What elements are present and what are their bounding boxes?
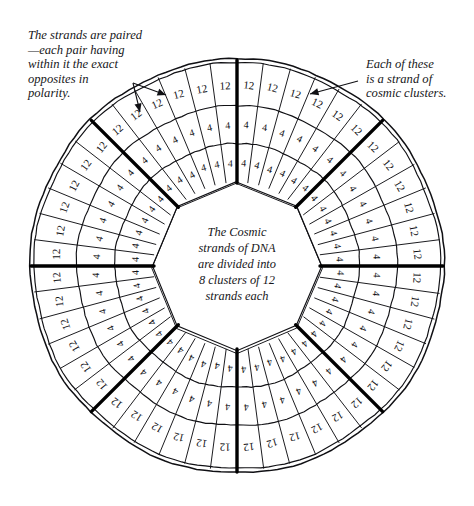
cell-number-inner: 4 <box>266 163 274 175</box>
cell-number-outer: 12 <box>381 157 397 173</box>
cell-number-inner: 4 <box>134 295 146 304</box>
cell-number-middle: 4 <box>96 308 108 316</box>
cell-number-middle: 4 <box>114 339 126 349</box>
cell-divider <box>310 165 414 224</box>
cell-number-outer: 12 <box>109 121 125 137</box>
cell-number-inner: 4 <box>214 360 221 372</box>
cell-number-outer: 12 <box>93 139 109 155</box>
center-text-line: are divided into <box>198 257 276 271</box>
cell-number-inner: 4 <box>335 257 346 262</box>
cell-number-inner: 4 <box>200 162 208 174</box>
cell-number-inner: 4 <box>279 353 288 365</box>
cell-number-middle: 4 <box>295 133 304 145</box>
cell-number-middle: 4 <box>366 308 378 316</box>
cell-number-inner: 4 <box>322 216 334 225</box>
cell-number-middle: 4 <box>371 254 382 259</box>
cell-number-middle: 4 <box>170 134 180 146</box>
cell-divider <box>279 339 339 443</box>
diagram-canvas: 1212121212121212121212121212121212121212… <box>0 0 474 506</box>
cell-number-outer: 12 <box>243 78 255 91</box>
cell-number-inner: 4 <box>330 296 342 304</box>
cell-number-middle: 4 <box>338 167 349 178</box>
center-text-line: strands each <box>206 289 269 303</box>
cell-number-inner: 4 <box>213 158 220 170</box>
center-text-group: The Cosmicstrands of DNAare divided into… <box>198 225 276 304</box>
cell-number-inner: 4 <box>133 229 145 237</box>
cell-number-middle: 4 <box>153 142 163 154</box>
cell-number-inner: 4 <box>253 362 261 374</box>
cell-number-middle: 4 <box>170 386 180 398</box>
cell-number-inner: 4 <box>332 282 344 289</box>
cell-number-outer: 12 <box>365 138 381 154</box>
cell-number-middle: 4 <box>93 290 105 297</box>
cell-number-outer: 12 <box>409 295 423 308</box>
cell-number-middle: 4 <box>105 199 117 209</box>
cell-number-inner: 4 <box>289 174 299 186</box>
cell-number-outer: 12 <box>53 224 67 237</box>
cell-number-middle: 4 <box>294 385 303 397</box>
cell-number-outer: 12 <box>243 441 255 454</box>
cell-number-middle: 4 <box>125 354 137 365</box>
cell-number-middle: 4 <box>138 367 149 379</box>
cell-number-outer: 12 <box>349 395 365 411</box>
cell-number-middle: 4 <box>338 354 350 365</box>
cell-number-outer: 12 <box>109 395 125 411</box>
arrow-strand-of-clusters-head <box>310 88 319 95</box>
center-text-line: The Cosmic <box>208 225 267 239</box>
cell-divider <box>134 90 194 194</box>
cell-number-outer: 12 <box>401 317 415 331</box>
cell-number-outer: 12 <box>58 317 73 331</box>
cell-number-outer: 12 <box>77 359 93 375</box>
cell-number-middle: 4 <box>363 217 375 225</box>
cell-number-inner: 4 <box>335 270 346 276</box>
cell-number-inner: 4 <box>200 359 208 371</box>
cell-number-middle: 4 <box>310 142 321 154</box>
cell-number-middle: 4 <box>347 183 359 193</box>
cell-number-inner: 4 <box>289 346 299 358</box>
cell-number-inner: 4 <box>187 169 197 181</box>
cell-number-inner: 4 <box>139 306 151 315</box>
cell-number-inner: 4 <box>175 345 185 357</box>
cell-number-middle: 4 <box>369 235 381 242</box>
annotation-strands-paired: The strands are paired —each pair having… <box>28 28 188 101</box>
cell-number-inner: 4 <box>317 319 329 329</box>
cell-number-outer: 12 <box>195 437 208 451</box>
cell-number-middle: 4 <box>225 120 231 131</box>
cell-number-middle: 4 <box>187 393 196 405</box>
cell-number-middle: 4 <box>225 402 230 413</box>
cell-number-outer: 12 <box>330 107 346 123</box>
cell-number-outer: 12 <box>219 441 230 453</box>
cell-number-inner: 4 <box>241 157 247 168</box>
cell-divider <box>279 89 339 193</box>
cell-number-outer: 12 <box>66 339 82 355</box>
cell-number-inner: 4 <box>328 229 340 237</box>
cell-number-outer: 12 <box>66 178 82 193</box>
cell-number-middle: 4 <box>114 182 126 192</box>
cell-number-outer: 12 <box>50 272 63 284</box>
cell-number-middle: 4 <box>206 398 213 410</box>
cell-number-inner: 4 <box>278 167 287 179</box>
cell-number-outer: 12 <box>128 106 144 122</box>
cell-number-middle: 4 <box>139 155 150 167</box>
cell-number-outer: 12 <box>288 430 302 444</box>
center-text-line: 8 clusters of 12 <box>199 273 275 287</box>
cell-number-inner: 4 <box>130 243 141 249</box>
cell-number-middle: 4 <box>349 340 361 350</box>
cell-number-middle: 4 <box>261 122 267 134</box>
cell-number-outer: 12 <box>392 178 408 194</box>
cell-number-middle: 4 <box>324 366 335 378</box>
cell-number-middle: 4 <box>105 324 117 333</box>
cell-number-outer: 12 <box>310 421 325 437</box>
cell-number-middle: 4 <box>311 377 321 389</box>
cell-number-inner: 4 <box>146 317 158 328</box>
cell-number-outer: 12 <box>289 86 303 101</box>
cell-number-outer: 12 <box>149 420 165 436</box>
cell-number-outer: 12 <box>172 430 186 444</box>
cell-number-outer: 12 <box>57 200 72 214</box>
cell-number-middle: 4 <box>279 394 287 406</box>
cell-number-inner: 4 <box>129 257 140 263</box>
cell-number-middle: 4 <box>243 119 249 130</box>
cell-number-outer: 12 <box>219 79 231 91</box>
cell-number-inner: 4 <box>146 204 158 214</box>
cell-number-middle: 4 <box>93 235 105 243</box>
